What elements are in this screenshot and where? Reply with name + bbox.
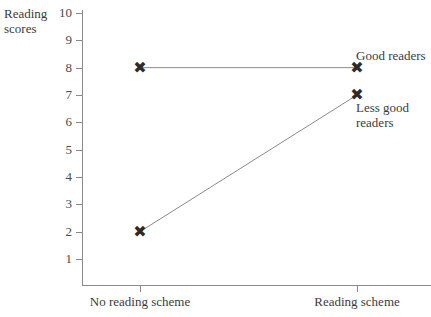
series-label-good-readers: Good readers [356,48,426,63]
series-label-less-good-readers: Less good readers [356,100,409,130]
data-point-marker: ✖ [133,224,146,240]
data-point-marker: ✖ [133,60,146,76]
reading-scores-line-chart: Reading scores 10987654321 No reading sc… [0,0,431,317]
